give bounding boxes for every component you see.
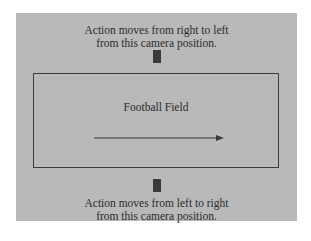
football-field: Football Field	[33, 73, 279, 168]
top-caption-line-2: from this camera position.	[16, 37, 297, 50]
top-camera-caption: Action moves from right to left from thi…	[16, 24, 297, 50]
bottom-caption-line-2: from this camera position.	[16, 210, 297, 223]
bottom-caption-line-1: Action moves from left to right	[16, 197, 297, 210]
camera-icon	[153, 50, 161, 63]
arrow-right-icon	[94, 134, 224, 142]
camera-icon	[153, 179, 161, 192]
top-caption-line-1: Action moves from right to left	[16, 24, 297, 37]
diagram-panel: Action moves from right to left from thi…	[16, 13, 297, 221]
field-label: Football Field	[34, 101, 278, 113]
bottom-camera-caption: Action moves from left to right from thi…	[16, 197, 297, 223]
